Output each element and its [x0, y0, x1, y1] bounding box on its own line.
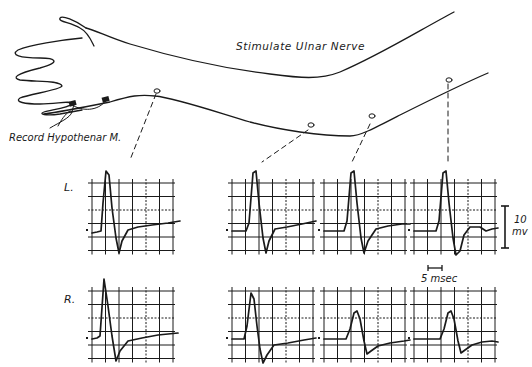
oscilloscope-panel-right-1	[86, 279, 178, 363]
oscilloscope-panel-left-3	[318, 171, 410, 255]
electrode-pads	[69, 96, 110, 107]
time-scale-label: 5 msec	[421, 273, 457, 284]
oscilloscope-panel-right-2	[226, 287, 316, 363]
time-scale-bar	[428, 265, 442, 271]
muscle-action-potential-trace	[324, 311, 410, 354]
row-label-right: R.	[64, 293, 75, 306]
muscle-action-potential-trace	[232, 293, 316, 363]
oscilloscope-panel-left-4	[408, 171, 498, 255]
oscilloscope-panel-right-4	[408, 287, 498, 363]
oscilloscope-panel-right-3	[318, 287, 410, 363]
right-traces-row	[86, 279, 498, 363]
oscilloscope-panel-left-1	[86, 171, 180, 255]
stimulation-leads	[130, 84, 448, 162]
voltage-scale-unit: mv	[512, 226, 528, 237]
arm-outline	[15, 12, 488, 136]
oscilloscope-panel-left-2	[226, 171, 316, 255]
row-label-left: L.	[64, 181, 74, 194]
stimulate-ulnar-nerve-label: Stimulate Ulnar Nerve	[236, 40, 365, 52]
muscle-action-potential-trace	[414, 171, 498, 255]
voltage-scale-bar	[501, 206, 509, 248]
stimulation-electrodes	[154, 78, 452, 127]
record-hypothenar-label: Record Hypothenar M.	[9, 132, 121, 143]
voltage-scale-value: 10	[514, 214, 527, 225]
left-traces-row	[86, 171, 498, 255]
nerve-conduction-diagram	[0, 0, 532, 367]
